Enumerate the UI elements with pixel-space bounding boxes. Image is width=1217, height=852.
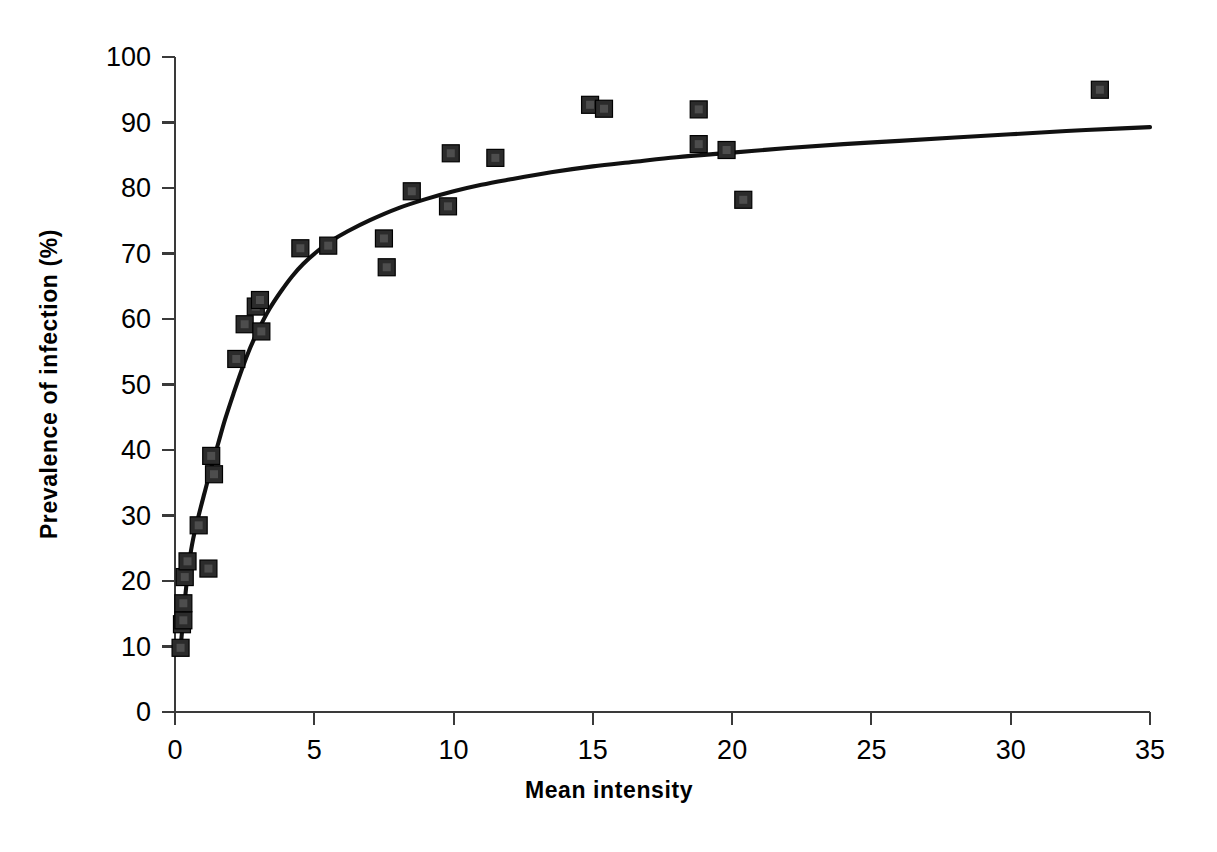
x-axis-tick-labels: 05101520253035 bbox=[167, 735, 1165, 765]
data-point bbox=[253, 323, 270, 340]
data-point bbox=[718, 142, 735, 159]
data-point bbox=[175, 612, 192, 629]
data-point bbox=[690, 101, 707, 118]
data-point bbox=[228, 350, 245, 367]
y-tick-label: 30 bbox=[121, 501, 151, 531]
data-point bbox=[236, 316, 253, 333]
data-point bbox=[292, 240, 309, 257]
data-point bbox=[442, 145, 459, 162]
data-point bbox=[1091, 81, 1108, 98]
y-tick-label: 70 bbox=[121, 239, 151, 269]
data-point bbox=[175, 595, 192, 612]
y-tick-label: 40 bbox=[121, 435, 151, 465]
y-axis-title: Prevalence of infection (%) bbox=[36, 229, 62, 539]
data-point bbox=[735, 191, 752, 208]
data-point bbox=[403, 183, 420, 200]
y-tick-label: 50 bbox=[121, 370, 151, 400]
data-point bbox=[190, 517, 207, 534]
y-axis-tick-marks bbox=[162, 57, 175, 712]
data-point bbox=[179, 553, 196, 570]
y-tick-label: 100 bbox=[106, 42, 151, 72]
x-axis-tick-marks bbox=[175, 712, 1150, 725]
data-point bbox=[320, 237, 337, 254]
chart-container: 0102030405060708090100 05101520253035 Me… bbox=[0, 0, 1217, 852]
y-tick-label: 10 bbox=[121, 632, 151, 662]
data-point bbox=[596, 100, 613, 117]
data-point bbox=[176, 569, 193, 586]
y-tick-label: 90 bbox=[121, 108, 151, 138]
y-tick-label: 80 bbox=[121, 173, 151, 203]
x-tick-label: 25 bbox=[856, 735, 886, 765]
data-point bbox=[172, 639, 189, 656]
data-point bbox=[206, 466, 223, 483]
x-tick-label: 15 bbox=[578, 735, 608, 765]
data-point bbox=[251, 292, 268, 309]
y-tick-label: 20 bbox=[121, 566, 151, 596]
x-tick-label: 10 bbox=[439, 735, 469, 765]
x-tick-label: 35 bbox=[1135, 735, 1165, 765]
y-axis-tick-labels: 0102030405060708090100 bbox=[106, 42, 151, 727]
data-point bbox=[375, 230, 392, 247]
scatter-plot: 0102030405060708090100 05101520253035 Me… bbox=[0, 0, 1217, 852]
x-tick-label: 5 bbox=[307, 735, 322, 765]
data-point-markers bbox=[172, 81, 1108, 656]
y-tick-label: 60 bbox=[121, 304, 151, 334]
x-tick-label: 30 bbox=[996, 735, 1026, 765]
fitted-curve bbox=[181, 127, 1150, 648]
data-point bbox=[690, 136, 707, 153]
data-point bbox=[378, 259, 395, 276]
data-point bbox=[203, 447, 220, 464]
data-point bbox=[200, 560, 217, 577]
data-point bbox=[440, 198, 457, 215]
x-axis-title: Mean intensity bbox=[525, 777, 693, 803]
data-point bbox=[487, 149, 504, 166]
x-tick-label: 20 bbox=[717, 735, 747, 765]
y-tick-label: 0 bbox=[136, 697, 151, 727]
x-tick-label: 0 bbox=[167, 735, 182, 765]
